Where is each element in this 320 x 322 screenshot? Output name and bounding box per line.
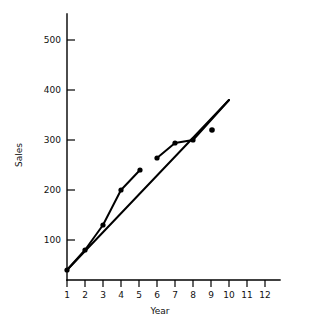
data-point-y5 <box>137 167 142 172</box>
data-point-y3 <box>100 222 105 227</box>
x-tick-label-6: 6 <box>154 290 160 300</box>
series-early-markers <box>64 167 142 272</box>
y-tick-label-300: 300 <box>44 135 61 145</box>
x-tick-label-3: 3 <box>100 290 106 300</box>
y-tick-label-400: 400 <box>44 85 61 95</box>
x-axis-tick-labels: 1 2 3 4 5 6 7 8 9 10 11 12 <box>64 290 271 300</box>
x-tick-label-1: 1 <box>64 290 70 300</box>
data-point-y2 <box>82 247 87 252</box>
x-tick-label-8: 8 <box>190 290 196 300</box>
x-tick-label-2: 2 <box>82 290 88 300</box>
x-axis-ticks <box>67 280 265 287</box>
x-tick-label-11: 11 <box>241 290 252 300</box>
sales-vs-year-chart: 500 400 300 200 100 1 2 3 4 5 <box>0 0 320 322</box>
x-tick-label-7: 7 <box>172 290 178 300</box>
x-axis-title: Year <box>149 306 169 316</box>
chart-container: 500 400 300 200 100 1 2 3 4 5 <box>0 0 320 322</box>
x-tick-label-4: 4 <box>118 290 124 300</box>
series-trend-line <box>67 100 229 270</box>
series-early-line <box>67 170 140 270</box>
data-point-y8 <box>190 137 195 142</box>
x-tick-label-12: 12 <box>259 290 270 300</box>
series-late-line <box>157 100 229 158</box>
x-tick-label-10: 10 <box>223 290 235 300</box>
data-point-y4 <box>118 187 123 192</box>
y-axis-tick-labels: 500 400 300 200 100 <box>44 35 61 245</box>
y-tick-label-500: 500 <box>44 35 61 45</box>
y-axis-ticks <box>67 40 75 240</box>
y-axis-title: Sales <box>14 143 24 167</box>
data-point-y6 <box>154 155 159 160</box>
data-point-y9-isolated <box>209 127 215 133</box>
x-tick-label-9: 9 <box>208 290 214 300</box>
x-tick-label-5: 5 <box>136 290 142 300</box>
y-tick-label-100: 100 <box>44 235 61 245</box>
data-point-y7 <box>172 140 177 145</box>
data-point-y1 <box>64 267 69 272</box>
y-tick-label-200: 200 <box>44 185 61 195</box>
